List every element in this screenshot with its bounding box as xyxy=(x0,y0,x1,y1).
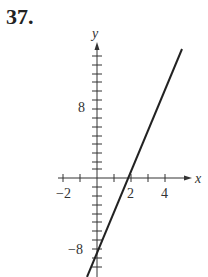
x-axis-arrow-icon xyxy=(184,176,192,181)
x-axis-label: x xyxy=(194,171,202,186)
x-tick-label-neg2: −2 xyxy=(56,186,71,201)
x-tick-label-2: 2 xyxy=(127,186,134,201)
graph: y x −2 2 4 8 −8 xyxy=(0,0,208,277)
y-tick-label-8: 8 xyxy=(78,100,85,115)
y-tick-label-neg8: −8 xyxy=(68,242,83,257)
y-axis-label: y xyxy=(90,26,99,41)
y-axis-arrow-icon xyxy=(95,42,100,50)
x-tick-label-4: 4 xyxy=(161,186,168,201)
plot-line xyxy=(87,49,182,277)
